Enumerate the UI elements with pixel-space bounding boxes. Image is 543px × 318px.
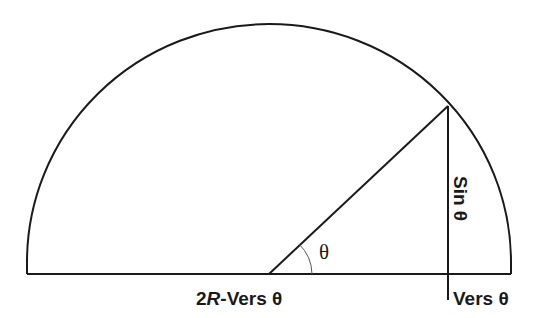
versine-label: Vers θ <box>453 288 509 309</box>
semicircle-diagram: θ Sin θ Vers θ 2R-Vers θ <box>0 0 543 318</box>
radius-line <box>269 106 448 274</box>
sine-label: Sin θ <box>450 176 471 221</box>
semicircle-arc <box>27 24 511 274</box>
complement-label: 2R-Vers θ <box>196 288 282 309</box>
diagram-canvas: θ Sin θ Vers θ 2R-Vers θ <box>0 0 543 318</box>
angle-arc <box>299 244 312 274</box>
angle-label: θ <box>319 240 329 264</box>
